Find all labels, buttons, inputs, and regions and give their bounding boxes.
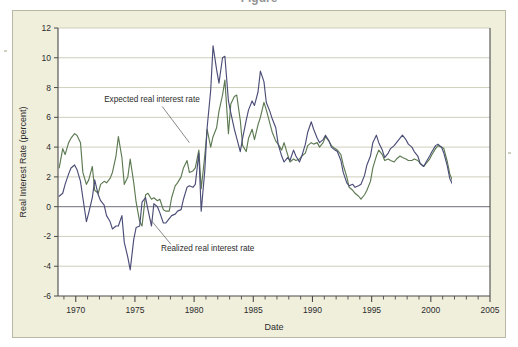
x-tick-label: 1980 xyxy=(185,305,204,315)
x-tick-label: 2005 xyxy=(481,305,500,315)
annotation-label: Expected real interest rate xyxy=(104,95,200,104)
y-tick-label: -4 xyxy=(43,261,51,271)
y-tick-label: 6 xyxy=(46,112,51,122)
y-tick-label: 2 xyxy=(46,172,51,182)
figure-container: Figure -6-4-2024681012197019751980198519… xyxy=(0,0,518,347)
chart-root: -6-4-20246810121970197519801985199019952… xyxy=(18,23,500,332)
cropped-title-text: Figure xyxy=(241,0,278,5)
x-tick-label: 1970 xyxy=(66,305,85,315)
x-axis-title: Date xyxy=(264,322,283,332)
x-tick-label: 1985 xyxy=(244,305,263,315)
scan-speck-right xyxy=(508,152,511,154)
x-tick-label: 1990 xyxy=(303,305,322,315)
y-tick-label: 8 xyxy=(46,83,51,93)
y-tick-label: 0 xyxy=(46,202,51,212)
y-tick-label: 12 xyxy=(42,23,52,33)
line-chart: -6-4-20246810121970197519801985199019952… xyxy=(12,10,506,338)
y-tick-label: -6 xyxy=(43,291,51,301)
x-tick-label: 1975 xyxy=(125,305,144,315)
y-tick-label: -2 xyxy=(43,231,51,241)
y-tick-label: 10 xyxy=(42,53,52,63)
y-axis-title: Real Interest Rate (percent) xyxy=(18,106,28,217)
x-tick-label: 1995 xyxy=(362,305,381,315)
x-tick-label: 2000 xyxy=(421,305,440,315)
scan-speck-left xyxy=(4,50,7,52)
y-tick-label: 4 xyxy=(46,142,51,152)
annotation-label: Realized real interest rate xyxy=(161,244,255,253)
cropped-title-strip: Figure xyxy=(0,0,518,9)
